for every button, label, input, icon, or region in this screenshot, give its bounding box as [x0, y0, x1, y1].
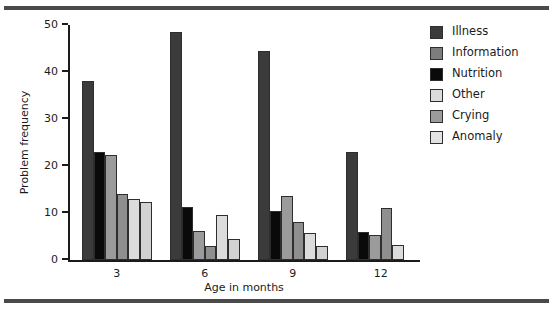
legend-item-label: Crying	[452, 110, 489, 122]
legend-swatch-icon	[430, 131, 443, 144]
bar	[117, 194, 129, 260]
x-tick-label: 6	[201, 268, 208, 279]
legend-item-label: Anomaly	[452, 131, 502, 143]
x-tick-label: 9	[289, 268, 296, 279]
bar-group	[82, 25, 152, 260]
y-tick-label: 50	[44, 19, 58, 30]
x-tick-label: 3	[113, 268, 120, 279]
bar	[316, 246, 328, 260]
legend-item[interactable]: Other	[430, 85, 548, 105]
y-axis-line	[68, 25, 70, 260]
bar	[258, 51, 270, 260]
bar	[105, 155, 117, 260]
bar	[270, 211, 282, 260]
bar	[293, 222, 305, 260]
bar-group	[258, 25, 328, 260]
legend-item-label: Other	[452, 89, 485, 101]
x-axis-label: Age in months	[68, 282, 420, 293]
chart-legend: IllnessInformationNutritionOtherCryingAn…	[430, 22, 548, 148]
bar	[228, 239, 240, 260]
bar	[346, 152, 358, 260]
bar	[281, 196, 293, 260]
bar	[216, 215, 228, 260]
bottom-rule	[4, 299, 549, 303]
chart-figure: Problem frequency Age in months 01020304…	[0, 0, 553, 309]
bar	[193, 231, 205, 260]
y-tick: 10	[62, 211, 68, 213]
y-tick: 30	[62, 117, 68, 119]
legend-item[interactable]: Information	[430, 43, 548, 63]
y-axis-label: Problem frequency	[18, 25, 32, 260]
legend-swatch-icon	[430, 47, 443, 60]
y-tick: 50	[62, 23, 68, 25]
bar	[94, 152, 106, 260]
bar-group	[346, 25, 416, 260]
legend-item[interactable]: Crying	[430, 106, 548, 126]
legend-item[interactable]: Anomaly	[430, 127, 548, 147]
x-tick-label: 12	[374, 268, 388, 279]
legend-swatch-icon	[430, 26, 443, 39]
bar	[381, 208, 393, 260]
y-tick: 40	[62, 70, 68, 72]
legend-item-label: Information	[452, 47, 519, 59]
y-tick-label: 0	[51, 254, 58, 265]
bar	[369, 235, 381, 260]
bar-group	[170, 25, 240, 260]
x-axis-line	[68, 260, 420, 262]
legend-swatch-icon	[430, 110, 443, 123]
bar	[182, 207, 194, 260]
legend-item[interactable]: Nutrition	[430, 64, 548, 84]
y-tick-label: 40	[44, 66, 58, 77]
top-rule	[4, 6, 549, 10]
legend-item-label: Nutrition	[452, 68, 502, 80]
legend-swatch-icon	[430, 68, 443, 81]
legend-swatch-icon	[430, 89, 443, 102]
y-tick: 20	[62, 164, 68, 166]
y-tick-label: 10	[44, 207, 58, 218]
bar	[358, 232, 370, 260]
bar	[392, 245, 404, 260]
bar	[128, 199, 140, 260]
bar	[170, 32, 182, 260]
bar	[304, 233, 316, 260]
y-tick-label: 20	[44, 160, 58, 171]
bar	[205, 246, 217, 260]
y-tick-label: 30	[44, 113, 58, 124]
legend-item-label: Illness	[452, 26, 488, 38]
bar	[140, 202, 152, 260]
legend-item[interactable]: Illness	[430, 22, 548, 42]
y-tick: 0	[62, 258, 68, 260]
bar	[82, 81, 94, 260]
plot-area: 01020304050 36912	[68, 25, 420, 260]
